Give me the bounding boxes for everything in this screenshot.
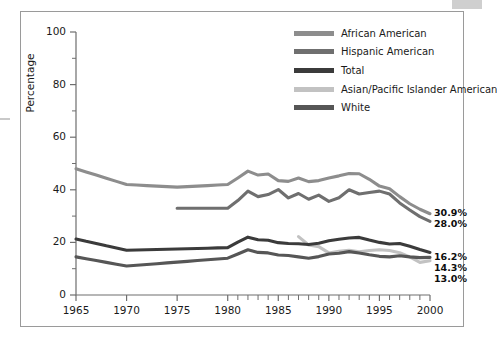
y-tick-label: 40 — [40, 183, 66, 195]
legend-swatch-icon — [294, 87, 334, 92]
legend-label: Total — [341, 65, 364, 76]
series-line-white — [76, 250, 430, 266]
y-tick-label: 0 — [40, 288, 66, 300]
legend-swatch-icon — [294, 68, 334, 73]
legend-swatch-icon — [294, 49, 334, 54]
legend-item[interactable]: White — [294, 98, 497, 117]
legend-item[interactable]: African American — [294, 24, 497, 43]
legend-label: Asian/Pacific Islander American — [341, 84, 497, 95]
legend-label: African American — [341, 28, 427, 39]
end-value-label: 30.9% — [434, 207, 467, 218]
legend-swatch-icon — [294, 105, 334, 110]
x-tick-label: 2000 — [410, 304, 450, 316]
y-tick-label: 100 — [40, 25, 66, 37]
x-tick-label: 1975 — [157, 304, 197, 316]
x-tick-label: 1990 — [309, 304, 349, 316]
series-lines-group — [76, 169, 430, 266]
legend-label: White — [341, 102, 370, 113]
legend-item[interactable]: Asian/Pacific Islander American — [294, 80, 497, 99]
end-value-label: 13.0% — [434, 273, 467, 284]
y-tick-label: 80 — [40, 78, 66, 90]
x-tick-label: 1995 — [359, 304, 399, 316]
y-tick-label: 60 — [40, 130, 66, 142]
end-value-label: 28.0% — [434, 218, 467, 229]
x-tick-label: 1965 — [56, 304, 96, 316]
legend-swatch-icon — [294, 31, 334, 36]
legend-item[interactable]: Hispanic American — [294, 43, 497, 62]
legend-label: Hispanic American — [341, 46, 434, 57]
chart-legend: African AmericanHispanic AmericanTotalAs… — [294, 24, 497, 117]
y-tick-label: 20 — [40, 235, 66, 247]
legend-item[interactable]: Total — [294, 61, 497, 80]
y-axis-title: Percentage — [24, 38, 36, 128]
x-tick-label: 1980 — [208, 304, 248, 316]
end-value-label: 16.2% — [434, 251, 467, 262]
series-line-asian-pacific-islander-american — [299, 237, 430, 263]
x-tick-label: 1985 — [258, 304, 298, 316]
x-tick-label: 1970 — [107, 304, 147, 316]
series-line-hispanic-american — [177, 190, 430, 222]
end-value-label: 14.3% — [434, 262, 467, 273]
